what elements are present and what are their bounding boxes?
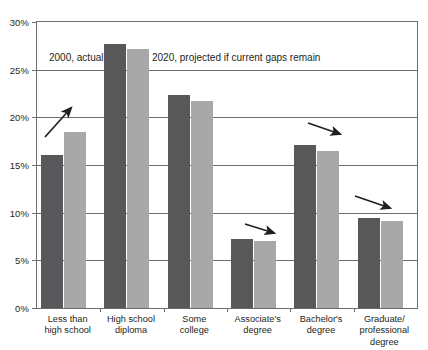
- y-axis-tick-label: 20%: [10, 112, 29, 123]
- x-axis-tick: [100, 308, 101, 312]
- legend-label-projected: 2020, projected if current gaps remain: [152, 52, 320, 63]
- bar-projected: [317, 151, 339, 308]
- y-axis-tick-label: 15%: [10, 160, 29, 171]
- bar-projected: [254, 241, 276, 308]
- plot-area: 0%5%10%15%20%25%30%: [36, 21, 418, 309]
- bar-projected: [191, 101, 213, 308]
- y-axis-tick-label: 30%: [10, 17, 29, 28]
- x-axis-category-label: Associate'sdegree: [226, 314, 289, 337]
- bar-group: [227, 22, 290, 308]
- bar-group: [100, 22, 163, 308]
- x-axis-category-label: Graduate/professionaldegree: [353, 314, 416, 348]
- x-axis-tick: [354, 308, 355, 312]
- bar-projected: [64, 132, 86, 308]
- x-axis-category-label: Less thanhigh school: [36, 314, 99, 337]
- bar-actual: [294, 145, 316, 308]
- bar-group: [354, 22, 417, 308]
- bar-projected: [127, 49, 149, 308]
- bar-actual: [41, 155, 63, 308]
- bar-projected: [381, 221, 403, 308]
- x-axis-tick: [227, 308, 228, 312]
- x-axis-category-label: Bachelor'sdegree: [289, 314, 352, 337]
- bars-layer: [37, 22, 417, 308]
- bar-actual: [358, 218, 380, 308]
- bar-chart: 0%5%10%15%20%25%30% Less thanhigh school…: [0, 0, 428, 350]
- bar-group: [37, 22, 100, 308]
- y-axis-tick-label: 25%: [10, 64, 29, 75]
- x-axis-tick: [290, 308, 291, 312]
- y-axis-tick-label: 5%: [15, 255, 29, 266]
- bar-group: [290, 22, 353, 308]
- y-axis-tick-label: 10%: [10, 207, 29, 218]
- x-axis-tick: [164, 308, 165, 312]
- bar-actual: [231, 239, 253, 308]
- legend-label-actual: 2000, actual: [49, 52, 104, 63]
- bar-actual: [168, 95, 190, 308]
- bar-group: [164, 22, 227, 308]
- bar-actual: [104, 44, 126, 308]
- y-axis-tick-label: 0%: [15, 303, 29, 314]
- x-axis-category-label: Somecollege: [163, 314, 226, 337]
- x-axis-category-label: High schooldiploma: [99, 314, 162, 337]
- y-axis-tick: [32, 308, 37, 309]
